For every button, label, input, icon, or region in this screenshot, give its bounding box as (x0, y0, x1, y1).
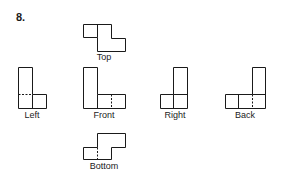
back-view (226, 68, 266, 109)
front-view-label: Front (93, 110, 114, 120)
front-view (84, 68, 126, 109)
top-view (84, 25, 126, 52)
bottom-view-label: Bottom (90, 161, 119, 171)
bottom-view (84, 134, 126, 160)
orthographic-views-drawing (0, 0, 297, 180)
top-view-label: Top (97, 52, 112, 62)
right-view-label: Right (164, 110, 185, 120)
right-view (161, 68, 188, 109)
left-view-label: Left (24, 110, 39, 120)
left-view (19, 68, 47, 109)
back-view-label: Back (235, 110, 255, 120)
